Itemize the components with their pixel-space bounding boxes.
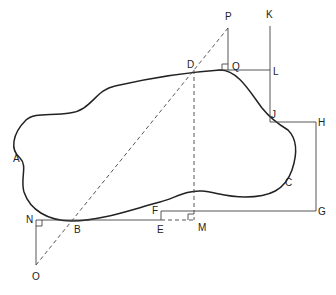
- label-K: K: [266, 10, 273, 20]
- right-angle-N: [36, 220, 42, 226]
- label-G: G: [318, 207, 326, 217]
- irregular-shape: [14, 70, 296, 221]
- label-H: H: [318, 118, 325, 128]
- label-Q: Q: [232, 62, 240, 72]
- label-D: D: [187, 60, 194, 70]
- label-E: E: [157, 225, 164, 235]
- right-angle-M: [188, 214, 194, 220]
- label-O: O: [32, 272, 40, 282]
- label-C: C: [285, 178, 292, 188]
- label-J: J: [271, 110, 276, 120]
- diagram-canvas: P Q K L D J H A C F G N B E M O: [0, 0, 336, 295]
- label-P: P: [225, 12, 232, 22]
- diagram-svg: [0, 0, 336, 295]
- label-B: B: [74, 225, 81, 235]
- label-L: L: [273, 67, 279, 77]
- label-F: F: [152, 206, 158, 216]
- right-angle-Q: [222, 64, 228, 70]
- label-N: N: [26, 215, 33, 225]
- label-M: M: [198, 223, 206, 233]
- label-A: A: [13, 154, 20, 164]
